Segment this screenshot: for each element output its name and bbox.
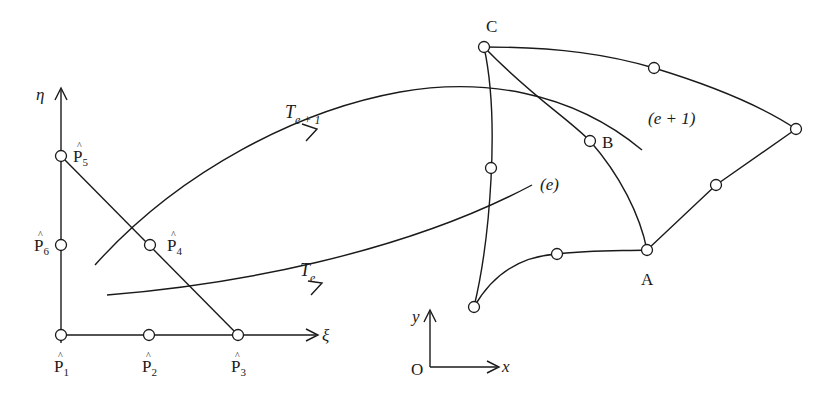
edge-top (484, 47, 796, 129)
node-P4 (145, 240, 156, 251)
isoparametric-mapping-diagram: η ξ Te + 1 Te P1 ^ P2 ^ P3 ^ P4 ^ P5 ^ P… (0, 0, 832, 401)
element-label-e: (e) (540, 175, 559, 194)
mapping-Te1: Te + 1 (95, 87, 642, 265)
node-P5 (56, 151, 67, 162)
y-axis-label: y (410, 307, 420, 326)
hat-P3: ^ (235, 350, 240, 361)
xi-axis-label: ξ (322, 326, 330, 345)
physical-nodes (469, 42, 802, 313)
node-P1 (56, 330, 67, 341)
edge-CBA (484, 47, 647, 250)
x-axis-label: x (501, 357, 510, 376)
node-top-mid (649, 63, 660, 74)
hat-P1: ^ (58, 350, 63, 361)
hat-P5: ^ (77, 140, 82, 151)
edge-right (647, 129, 796, 250)
hat-P2: ^ (146, 350, 151, 361)
vertex-label-B: B (602, 133, 613, 152)
node-bottom-mid (552, 249, 563, 260)
physical-elements (474, 47, 796, 307)
hat-P4: ^ (171, 229, 176, 240)
node-P3 (233, 330, 244, 341)
reference-node-labels: P1 ^ P2 ^ P3 ^ P4 ^ P5 ^ P6 ^ (34, 140, 246, 378)
node-A (642, 245, 653, 256)
node-B (585, 136, 596, 147)
node-P6 (56, 240, 67, 251)
hat-P6: ^ (38, 229, 43, 240)
node-bottom-left (469, 302, 480, 313)
node-right (791, 124, 802, 135)
global-axes: O x y (410, 307, 510, 379)
physical-labels: C B A (e + 1) (e) (486, 17, 696, 289)
origin-label: O (411, 360, 423, 379)
node-left-mid (486, 163, 497, 174)
vertex-label-C: C (486, 17, 497, 36)
mapping-curve-Te1 (95, 87, 642, 265)
vertex-label-A: A (641, 270, 654, 289)
reference-axes: η ξ (36, 85, 330, 345)
element-label-e-plus-1: (e + 1) (648, 109, 696, 128)
edge-left (474, 47, 492, 307)
node-C (479, 42, 490, 53)
eta-axis-label: η (36, 85, 44, 104)
node-right-mid (711, 180, 722, 191)
mapping-label-Te1: Te + 1 (285, 102, 320, 127)
node-P2 (144, 330, 155, 341)
